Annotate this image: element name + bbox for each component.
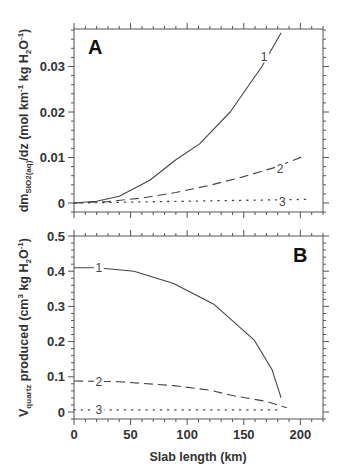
series-3-label: 3 bbox=[96, 403, 103, 417]
series-2-label: 2 bbox=[277, 162, 284, 176]
y-axis-title: Vquartz produced (cm3 kg H2O-1) bbox=[16, 238, 33, 417]
series-2-line bbox=[74, 381, 287, 408]
y-tick-label: 0 bbox=[58, 405, 65, 420]
y-tick-label: 0.3 bbox=[47, 299, 65, 314]
panel-letter: B bbox=[293, 244, 307, 266]
y-tick-label: 0.4 bbox=[47, 264, 66, 279]
x-tick-label: 200 bbox=[290, 427, 312, 442]
x-tick-label: 50 bbox=[123, 427, 137, 442]
y-tick-label: 0.03 bbox=[40, 59, 65, 74]
plot-frame bbox=[74, 236, 323, 419]
series-2-line bbox=[74, 155, 306, 203]
panel-b: 00.10.20.30.40.5050100150200Slab length … bbox=[16, 229, 329, 465]
series-2-label: 2 bbox=[96, 375, 103, 389]
y-tick-label: 0.1 bbox=[47, 369, 65, 384]
series-1-line bbox=[74, 33, 281, 203]
plot-frame bbox=[74, 29, 323, 212]
y-tick-label: 0.5 bbox=[47, 229, 65, 244]
x-tick-label: 0 bbox=[70, 427, 77, 442]
x-axis-title: Slab length (km) bbox=[149, 450, 246, 464]
x-tick-label: 150 bbox=[233, 427, 255, 442]
series-3-label: 3 bbox=[279, 195, 286, 209]
y-tick-label: 0.01 bbox=[40, 150, 65, 165]
series-1-label: 1 bbox=[261, 50, 268, 64]
panel-a: 00.010.020.03dmSiO2(aq)/dz (mol km-1 kg … bbox=[16, 23, 329, 218]
series-1-label: 1 bbox=[96, 261, 103, 275]
panel-letter: A bbox=[88, 36, 102, 58]
y-tick-label: 0 bbox=[58, 196, 65, 211]
series-1-line bbox=[74, 268, 281, 398]
y-axis-title: dmSiO2(aq)/dz (mol km-1 kg H2O-1) bbox=[16, 29, 33, 213]
y-tick-label: 0.02 bbox=[40, 105, 65, 120]
x-tick-label: 100 bbox=[176, 427, 198, 442]
y-tick-label: 0.2 bbox=[47, 334, 65, 349]
chart-figure: 00.010.020.03dmSiO2(aq)/dz (mol km-1 kg … bbox=[0, 0, 342, 473]
